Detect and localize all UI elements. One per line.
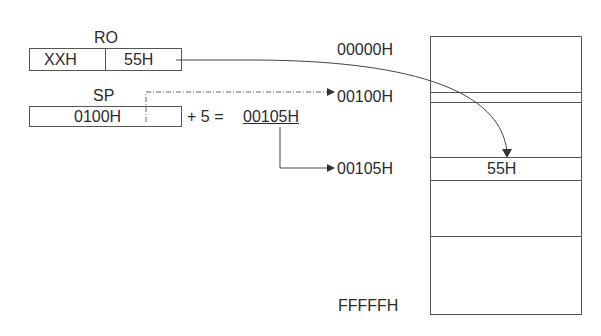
arrowhead-icon [502, 149, 512, 158]
sp-to-address-arrow [146, 92, 327, 122]
arrows-layer [0, 0, 601, 336]
result-to-address-arrow [280, 127, 327, 168]
r0-to-memory-arrow [176, 60, 507, 152]
arrowhead-icon [327, 164, 335, 172]
arrowhead-icon [327, 88, 335, 96]
